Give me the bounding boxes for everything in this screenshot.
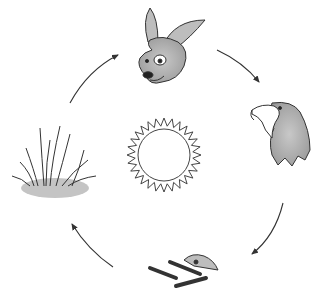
grass-icon [12,126,96,198]
arrow-eagle-to-remains [252,203,283,254]
arrow-remains-to-grass [72,224,113,267]
food-cycle-diagram: Sun [0,0,319,300]
sun-label: Sun [0,0,30,4]
sun-icon [127,118,201,192]
bones-remains-icon [150,255,218,286]
arrow-grass-to-rabbit [70,55,118,103]
rabbit-icon [139,8,205,83]
eagle-icon [251,102,310,166]
arrow-rabbit-to-eagle [217,50,259,82]
